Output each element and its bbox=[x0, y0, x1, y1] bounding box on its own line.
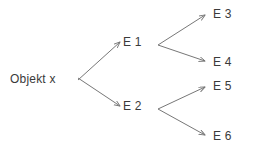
edge-root-e2 bbox=[78, 78, 120, 106]
edge-e1-e4 bbox=[158, 45, 205, 61]
edge-e2-e5 bbox=[158, 87, 205, 109]
edge-root-e1 bbox=[78, 42, 120, 80]
node-e3: E 3 bbox=[213, 7, 232, 21]
diagram-canvas: Objekt x E 1 E 2 E 3 E 4 E 5 E 6 bbox=[0, 0, 258, 156]
node-e4: E 4 bbox=[213, 55, 232, 69]
node-root: Objekt x bbox=[10, 72, 56, 86]
edge-e2-e6 bbox=[158, 109, 205, 135]
node-e2: E 2 bbox=[123, 99, 142, 113]
node-e5: E 5 bbox=[213, 79, 232, 93]
node-e6: E 6 bbox=[213, 129, 232, 143]
edge-e1-e3 bbox=[158, 15, 205, 45]
node-e1: E 1 bbox=[123, 35, 142, 49]
